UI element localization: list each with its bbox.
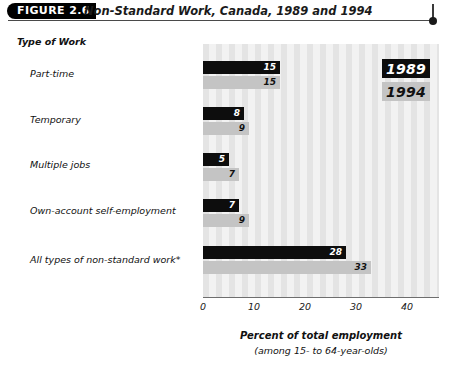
bar-value: 9: [239, 122, 249, 135]
x-axis-line: [203, 297, 439, 298]
category-label-multiple-jobs: Multiple jobs: [30, 159, 90, 170]
x-tick-30: 30: [350, 301, 362, 312]
figure-header: FIGURE 2.6 Non-Standard Work, Canada, 19…: [0, 0, 457, 30]
x-tick-10: 10: [248, 301, 260, 312]
legend-item-1994: 1994: [382, 82, 430, 101]
bar-value: 33: [354, 261, 371, 274]
figure-number-tag: FIGURE 2.6: [7, 3, 96, 19]
category-label-all-types: All types of non-standard work*: [30, 254, 181, 265]
bar-1989-part-time: 15: [203, 61, 280, 74]
bar-value: 15: [263, 76, 280, 89]
bar-1994-own-account: 9: [203, 214, 249, 227]
bar-value: 15: [263, 61, 280, 74]
bar-1989-all-types: 28: [203, 246, 346, 259]
bar-value: 8: [234, 107, 244, 120]
x-tick-20: 20: [299, 301, 311, 312]
bar-1994-temporary: 9: [203, 122, 249, 135]
figure-title: Non-Standard Work, Canada, 1989 and 1994: [84, 4, 372, 19]
x-tick-40: 40: [401, 301, 413, 312]
bar-1989-temporary: 8: [203, 107, 244, 120]
category-label-temporary: Temporary: [30, 114, 81, 125]
figure-container: FIGURE 2.6 Non-Standard Work, Canada, 19…: [0, 0, 457, 368]
bar-value: 5: [219, 153, 229, 166]
x-axis-subtitle: (among 15- to 64-year-olds): [203, 345, 439, 356]
bar-1994-part-time: 15: [203, 76, 280, 89]
bar-value: 7: [229, 199, 239, 212]
bar-1994-all-types: 33: [203, 261, 371, 274]
bar-value: 28: [329, 246, 346, 259]
x-tick-0: 0: [200, 301, 206, 312]
bar-1989-multiple-jobs: 5: [203, 153, 229, 166]
bar-value: 7: [229, 168, 239, 181]
legend-item-1989: 1989: [382, 59, 430, 78]
category-label-own-account: Own-account self-employment: [30, 205, 176, 216]
header-pin-dot-icon: [429, 17, 437, 25]
bar-1989-own-account: 7: [203, 199, 239, 212]
category-label-part-time: Part-time: [30, 68, 74, 79]
x-axis-title: Percent of total employment: [203, 330, 439, 341]
bar-value: 9: [239, 214, 249, 227]
bar-1994-multiple-jobs: 7: [203, 168, 239, 181]
category-axis-heading: Type of Work: [17, 36, 86, 47]
header-rule: [8, 20, 433, 21]
